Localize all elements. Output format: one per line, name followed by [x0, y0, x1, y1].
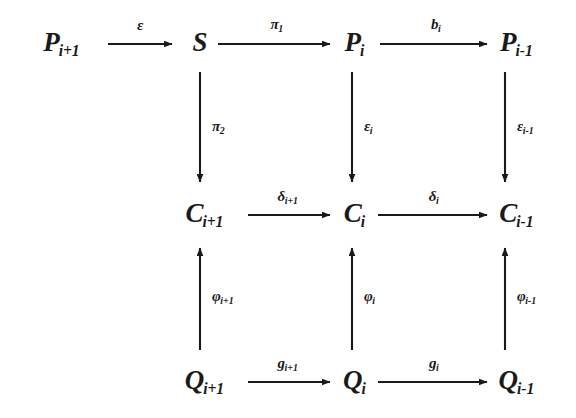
symbol-base: C	[499, 198, 517, 228]
symbol-subscript: i	[360, 42, 364, 59]
symbol-base: Q	[185, 365, 205, 395]
symbol-base: C	[344, 198, 362, 228]
diagram-node-p-im1: Pi-1	[500, 29, 534, 56]
diagram-node-p-i: Pi	[345, 29, 366, 56]
arrow-label-e4: π2	[212, 119, 225, 134]
arrow-label-e9: φi+1	[212, 289, 234, 304]
diagram-node-c-i: Ci	[344, 200, 366, 227]
symbol-subscript: i-1	[516, 213, 533, 230]
symbol-subscript: i-1	[525, 295, 536, 306]
diagram-node-c-ip1: Ci+1	[185, 200, 224, 227]
symbol-subscript: i	[361, 380, 365, 397]
symbol-subscript: i	[361, 213, 365, 230]
symbol-base: π	[270, 16, 278, 32]
symbol-subscript: i-1	[517, 380, 534, 397]
arrow-label-e10: φi	[364, 289, 376, 304]
symbol-base: ε	[137, 17, 143, 33]
symbol-subscript: i+1	[203, 380, 224, 397]
symbol-base: Q	[343, 365, 363, 395]
symbol-base: S	[192, 27, 207, 57]
symbol-base: C	[185, 198, 203, 228]
symbol-subscript: i+1	[202, 213, 223, 230]
diagram-node-q-i: Qi	[343, 367, 367, 394]
arrow-label-e6: εi-1	[517, 119, 534, 134]
arrow-label-e11: φi-1	[517, 289, 537, 304]
symbol-subscript: i+1	[220, 295, 233, 306]
arrow-label-e12: gi+1	[278, 356, 299, 371]
symbol-subscript: i	[436, 362, 439, 373]
symbol-subscript: i	[372, 295, 375, 306]
arrow-label-e5: εi	[364, 119, 373, 134]
symbol-subscript: i	[438, 23, 441, 34]
symbol-subscript: 1	[278, 23, 283, 34]
symbol-subscript: 2	[220, 125, 225, 136]
symbol-subscript: i	[436, 195, 439, 206]
arrow-label-e3: bi	[431, 17, 441, 32]
symbol-subscript: i-1	[523, 125, 534, 136]
diagram-node-s: S	[192, 29, 207, 56]
arrow-label-e2: π1	[270, 17, 283, 32]
symbol-subscript: i+1	[285, 362, 298, 373]
diagram-node-q-im1: Qi-1	[499, 367, 536, 394]
arrow-label-e1: ε	[137, 18, 143, 33]
symbol-subscript: i+1	[59, 42, 80, 59]
diagram-node-p-ip1: Pi+1	[43, 29, 81, 56]
symbol-subscript: i-1	[516, 42, 533, 59]
arrow-label-e13: gi	[429, 356, 439, 371]
diagram-node-c-im1: Ci-1	[499, 200, 534, 227]
diagram-node-q-ip1: Qi+1	[185, 367, 226, 394]
symbol-base: Q	[499, 365, 519, 395]
commutative-diagram: Pi+1SPiPi-1Ci+1CiCi-1Qi+1QiQi-1 επ1biπ2ε…	[0, 0, 576, 418]
symbol-base: π	[212, 118, 220, 134]
symbol-subscript: i+1	[285, 195, 298, 206]
arrow-label-e8: δi	[429, 189, 439, 204]
arrow-label-e7: δi+1	[278, 189, 299, 204]
